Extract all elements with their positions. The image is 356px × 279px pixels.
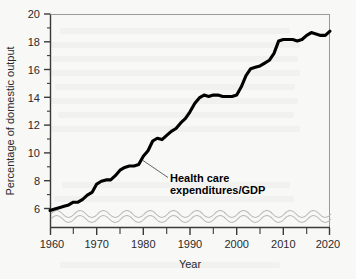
x-tick-label-1990: 1990 [178,238,202,250]
annotation-leader-line [143,161,168,178]
x-axis-major-ticks [51,228,330,235]
y-tick-label-8: 8 [34,175,40,187]
x-tick-label-2000: 2000 [224,238,248,250]
y-tick-label-10: 10 [28,147,40,159]
x-tick-label-1970: 1970 [84,238,108,250]
y-tick-label-14: 14 [28,92,40,104]
y-tick-label-6: 6 [34,203,40,215]
y-tick-label-12: 12 [28,119,40,131]
chart-canvas: 20 18 16 14 12 10 8 6 Percentage of dome… [0,0,356,279]
x-tick-label-2010: 2010 [271,238,295,250]
annotation-label-line2: expenditures/GDP [170,184,265,196]
annotation-health-care-gdp: Health care expenditures/GDP [143,161,265,197]
x-tick-label-1960: 1960 [40,238,64,250]
annotation-label-line1: Health care [170,172,229,184]
y-tick-label-16: 16 [28,64,40,76]
y-tick-label-20: 20 [28,8,40,20]
y-axis-tick-labels: 20 18 16 14 12 10 8 6 [28,8,40,215]
y-tick-label-18: 18 [28,36,40,48]
y-axis-break-squiggle [51,211,331,223]
x-tick-label-1980: 1980 [131,238,155,250]
y-axis-title: Percentage of domestic output [4,46,16,195]
x-axis-title: Year [179,258,202,270]
health-care-gdp-chart: 20 18 16 14 12 10 8 6 Percentage of dome… [0,0,356,279]
x-tick-label-2020: 2020 [316,238,340,250]
x-axis-tick-labels: 1960 1970 1980 1990 2000 2010 2020 [40,238,340,250]
